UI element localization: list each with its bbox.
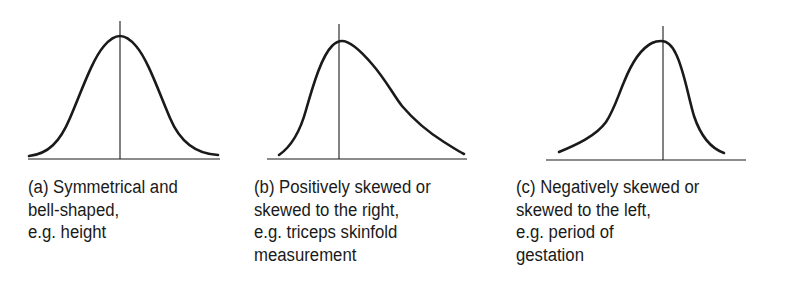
caption-line: measurement: [254, 244, 431, 267]
caption-line: skewed to the left,: [516, 199, 699, 222]
panel-c-curve: [559, 41, 724, 153]
panel-c-negative-skew: [546, 26, 746, 160]
distribution-diagrams: [0, 0, 786, 170]
caption-line: e.g. triceps skinfold: [254, 221, 431, 244]
panel-c-caption: (c) Negatively skewed or skewed to the l…: [516, 176, 699, 266]
panel-a-symmetrical: [28, 21, 220, 159]
caption-line: e.g. period of: [516, 221, 699, 244]
caption-line: gestation: [516, 244, 699, 267]
panel-a-curve: [29, 36, 218, 156]
panel-b-positive-skew: [267, 24, 467, 159]
caption-line: (a) Symmetrical and: [28, 176, 178, 199]
caption-line: e.g. height: [28, 221, 178, 244]
panel-b-curve: [279, 41, 464, 155]
caption-line: bell-shaped,: [28, 199, 178, 222]
panel-b-caption: (b) Positively skewed or skewed to the r…: [254, 176, 431, 266]
caption-line: (c) Negatively skewed or: [516, 176, 699, 199]
caption-line: (b) Positively skewed or: [254, 176, 431, 199]
caption-line: skewed to the right,: [254, 199, 431, 222]
panel-a-caption: (a) Symmetrical and bell-shaped, e.g. he…: [28, 176, 178, 244]
